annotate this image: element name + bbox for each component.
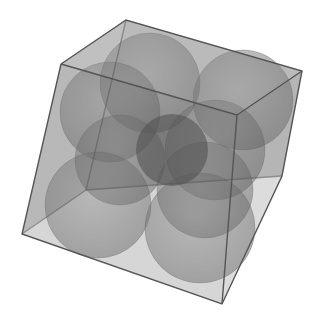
cube-spheres-render <box>0 0 321 316</box>
